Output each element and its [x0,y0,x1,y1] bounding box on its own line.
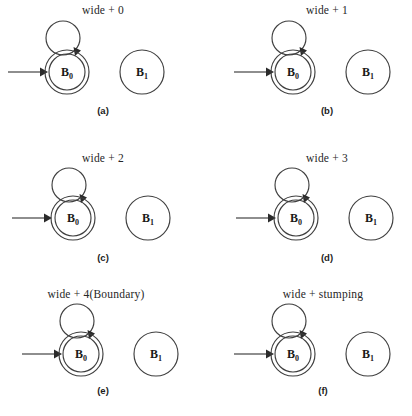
panel-b: wide + 1 B0 B1 (b) [206,0,412,140]
automaton-diagram-b: B0 B1 [206,0,412,140]
state-B0-label-a: B0 [61,65,73,81]
state-B1-label-b: B1 [362,65,374,81]
caption-c: (c) [0,252,206,263]
state-B1-label-f: B1 [362,347,374,363]
automaton-diagram-a: B0 B1 [0,0,206,140]
state-B0-label-b: B0 [287,65,299,81]
caption-e: (e) [0,385,206,396]
state-B0-label-f: B0 [287,347,299,363]
state-B1-label-e: B1 [150,347,162,363]
state-B0-label-d: B0 [290,211,302,227]
panel-d: wide + 3 B0 B1 (d) [206,140,412,280]
caption-a: (a) [0,105,206,116]
start-arrow-head-a [40,68,48,77]
panel-e: wide + 4(Boundary) B0 B1 (e) [0,280,206,416]
state-B1-label-d: B1 [365,211,377,227]
state-B1-label-a: B1 [136,65,148,81]
state-B1-label-c: B1 [142,211,154,227]
caption-d: (d) [224,252,412,263]
caption-f: (f) [220,385,412,396]
start-arrow-head-e [54,350,62,359]
start-arrow-head-b [266,68,274,77]
panel-c: wide + 2 B0 B1 (c) [0,140,206,280]
caption-b: (b) [224,105,412,116]
state-B0-label-c: B0 [67,211,79,227]
panel-f: wide + stumping B0 B1 (f) [206,280,412,416]
figure-root: wide + 0 B0 B1 (a) wide + 1 [0,0,412,416]
panel-a: wide + 0 B0 B1 (a) [0,0,206,140]
start-arrow-head-f [266,350,274,359]
state-B0-label-e: B0 [75,347,87,363]
